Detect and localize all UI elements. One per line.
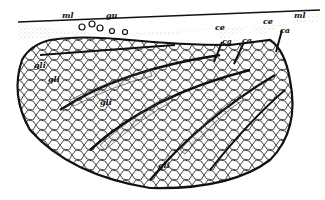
label-ml-left: ml: [62, 11, 74, 19]
label-gu: gu: [106, 11, 117, 19]
histology-figure: [0, 0, 325, 200]
label-gli-4: gli: [158, 161, 170, 169]
label-ca-1: ca: [222, 37, 232, 45]
gland-outline: [18, 38, 293, 189]
label-gli-1: gli: [34, 61, 46, 69]
label-gli-3: gli: [100, 98, 112, 106]
label-ce-1: ce: [215, 23, 225, 31]
label-ca-2: ca: [242, 36, 252, 44]
label-ca-3: ca: [280, 26, 290, 34]
label-ml-right: ml: [294, 11, 306, 19]
label-ce-2: ce: [263, 17, 273, 25]
label-gli-2: gli: [48, 75, 60, 83]
